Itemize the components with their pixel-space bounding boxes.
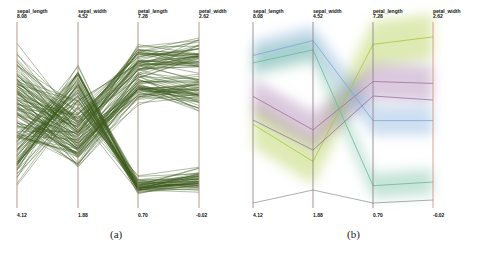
axis-max-petal-length: 7.28 xyxy=(373,14,383,19)
chart-a: sepal_length 8.08 4.12 sepal_width 4.52 … xyxy=(0,0,239,254)
axis-min-petal-width: -0.02 xyxy=(196,213,207,218)
axis-min-sepal-width: 1.88 xyxy=(78,213,88,218)
axis-max-petal-width: 2.62 xyxy=(433,14,443,19)
axis-max-sepal-length: 8.08 xyxy=(253,14,263,19)
caption-b: (b) xyxy=(347,228,360,240)
axis-min-petal-length: 0.70 xyxy=(373,213,383,218)
axis-min-petal-length: 0.70 xyxy=(138,213,148,218)
axis-min-petal-width: -0.02 xyxy=(433,213,444,218)
polylines xyxy=(17,38,199,194)
axis-max-sepal-width: 4.52 xyxy=(313,14,323,19)
axis-max-petal-length: 7.28 xyxy=(138,14,148,19)
axis-max-sepal-width: 4.52 xyxy=(78,14,88,19)
axis-max-sepal-length: 8.08 xyxy=(17,14,27,19)
chart-b: sepal_length 8.08 4.12 sepal_width 4.52 … xyxy=(239,0,478,254)
axis-min-sepal-length: 4.12 xyxy=(253,213,263,218)
density-bands xyxy=(253,14,433,199)
caption-a: (a) xyxy=(110,228,122,240)
axis-min-sepal-length: 4.12 xyxy=(17,213,27,218)
axis-min-sepal-width: 1.88 xyxy=(313,213,323,218)
axis-max-petal-width: 2.62 xyxy=(199,14,209,19)
